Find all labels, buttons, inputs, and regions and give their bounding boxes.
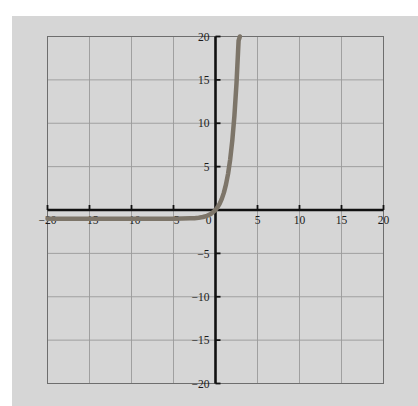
y-axis-tick-label: −10 <box>192 291 210 303</box>
data-series-group <box>48 37 240 219</box>
y-axis-tick-label: −20 <box>192 378 210 390</box>
y-axis-tick-label: −15 <box>192 334 210 346</box>
x-axis-tick-label: 5 <box>255 214 261 226</box>
y-axis-tick-label: 10 <box>198 117 210 129</box>
chart-plot-area: −20−15−10−505101520−20−15−10−55101520 <box>0 0 418 406</box>
y-axis-tick-label: 15 <box>198 74 210 86</box>
x-axis-tick-label: 10 <box>294 214 306 226</box>
chart-figure: −20−15−10−505101520−20−15−10−55101520 <box>0 0 418 406</box>
y-axis-tick-label: 20 <box>198 31 210 43</box>
data-curve <box>48 37 240 219</box>
y-axis-tick-label: −5 <box>197 248 209 260</box>
y-axis-tick-label: 5 <box>204 161 210 173</box>
x-axis-tick-label: 20 <box>378 214 390 226</box>
x-axis-tick-label: 15 <box>336 214 348 226</box>
